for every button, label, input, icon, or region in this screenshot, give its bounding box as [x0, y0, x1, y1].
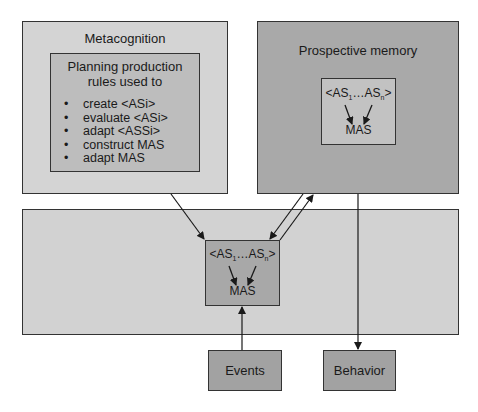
working-sequence-box: <AS1…ASn> MAS [205, 240, 280, 306]
rule-item: adapt MAS [63, 152, 168, 166]
sequence-label: <AS1…ASn> [206, 247, 279, 262]
events-box: Events [208, 350, 282, 391]
events-label: Events [209, 363, 281, 378]
planning-title-line2: rules used to [51, 74, 199, 89]
rule-item: evaluate <ASi> [63, 112, 168, 126]
planning-title-line1: Planning production [51, 59, 199, 74]
metacognition-title: Metacognition [23, 31, 227, 46]
rules-list: create <ASi> evaluate <ASi> adapt <ASSi>… [63, 98, 168, 166]
sequence-label: <AS1…ASn> [322, 86, 395, 101]
planning-rules-box: Planning production rules used to create… [50, 53, 200, 172]
behavior-box: Behavior [323, 350, 396, 391]
behavior-label: Behavior [324, 363, 395, 378]
rule-item: construct MAS [63, 139, 168, 153]
rule-item: adapt <ASSi> [63, 125, 168, 139]
mas-label: MAS [322, 123, 395, 137]
prospective-sequence-box: <AS1…ASn> MAS [321, 78, 396, 145]
mas-label: MAS [206, 284, 279, 298]
prospective-memory-title: Prospective memory [258, 43, 458, 58]
rule-item: create <ASi> [63, 98, 168, 112]
